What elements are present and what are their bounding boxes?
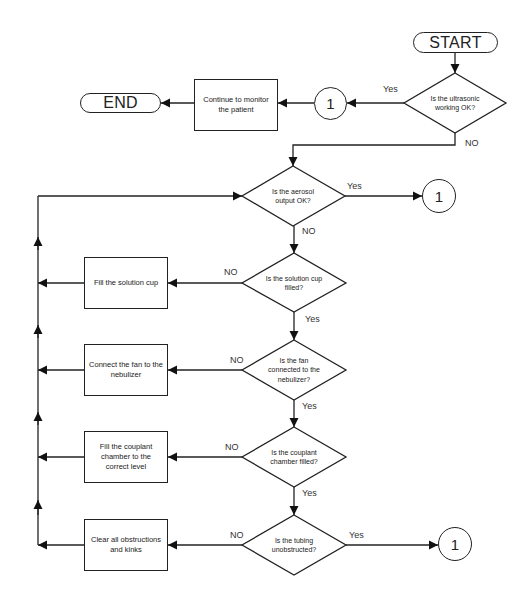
label-aerosol-no: NO xyxy=(302,226,316,236)
label-ultrasonic-yes: Yes xyxy=(383,84,398,94)
label-tubing-yes: Yes xyxy=(349,530,364,540)
label-aerosol-yes: Yes xyxy=(347,181,362,191)
label-couplant-yes: Yes xyxy=(302,488,317,498)
label-fan-yes: Yes xyxy=(302,401,317,411)
connector-1-top: 1 xyxy=(314,87,347,120)
start-terminal: START xyxy=(413,32,498,53)
decision-couplant: Is the couplant chamber filled? xyxy=(252,442,336,472)
label-couplant-no: NO xyxy=(225,442,239,452)
label-solution-cup-yes: Yes xyxy=(305,314,320,324)
label-fan-no: NO xyxy=(230,355,244,365)
decision-tubing: Is the tubing unobstructed? xyxy=(252,530,336,560)
connector-1-aerosol: 1 xyxy=(422,179,456,213)
label-ultrasonic-no: NO xyxy=(465,138,479,148)
action-clear: Clear all obstructions and kinks xyxy=(84,519,168,571)
action-fill-cup: Fill the solution cup xyxy=(84,257,168,309)
label-solution-cup-no: NO xyxy=(224,267,238,277)
decision-aerosol: Is the aerosol output OK? xyxy=(252,181,334,211)
end-terminal: END xyxy=(80,93,161,113)
label-tubing-no: NO xyxy=(230,530,244,540)
connector-1-tubing: 1 xyxy=(438,527,472,561)
action-monitor: Continue to monitor the patient xyxy=(194,79,278,131)
decision-solution-cup: Is the solution cup filled? xyxy=(252,268,336,298)
decision-ultrasonic: Is the ultrasonic working OK? xyxy=(414,88,496,118)
action-fill-couplant: Fill the couplant chamber to the correct… xyxy=(84,431,168,483)
action-connect-fan: Connect the fan to the nebulizer xyxy=(84,344,168,396)
decision-fan: Is the fan connected to the nebulizer? xyxy=(252,355,336,385)
